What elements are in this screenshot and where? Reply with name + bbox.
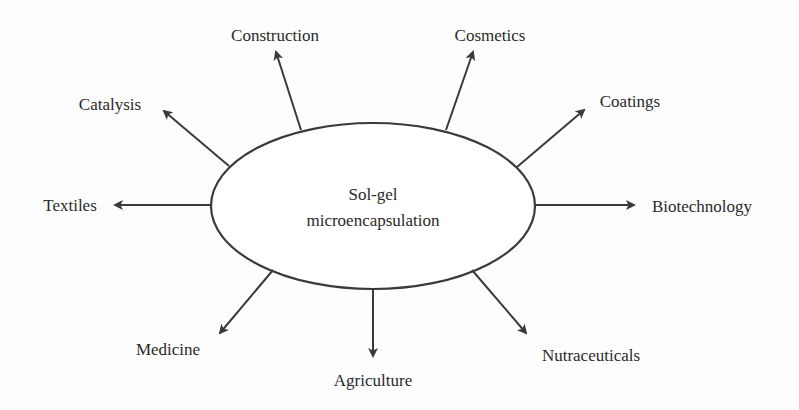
label-agriculture: Agriculture <box>334 371 412 390</box>
center-ellipse <box>211 123 535 289</box>
arrow-coatings <box>517 110 584 167</box>
label-nutraceuticals: Nutraceuticals <box>542 346 640 365</box>
label-biotechnology: Biotechnology <box>652 197 753 216</box>
label-construction: Construction <box>231 26 319 45</box>
arrow-catalysis <box>164 111 229 166</box>
label-coatings: Coatings <box>600 92 660 111</box>
center-label-line1: Sol-gel <box>348 185 397 204</box>
arrow-medicine <box>220 270 273 333</box>
center-label-line2: microencapsulation <box>306 211 440 230</box>
arrow-construction <box>276 52 301 130</box>
arrow-nutraceuticals <box>472 270 526 333</box>
label-textiles: Textiles <box>43 196 97 215</box>
diagram-canvas: Sol-gel microencapsulation Construction … <box>0 0 799 410</box>
label-cosmetics: Cosmetics <box>455 26 526 45</box>
label-catalysis: Catalysis <box>79 95 141 114</box>
label-medicine: Medicine <box>136 340 200 359</box>
arrow-cosmetics <box>446 52 473 130</box>
